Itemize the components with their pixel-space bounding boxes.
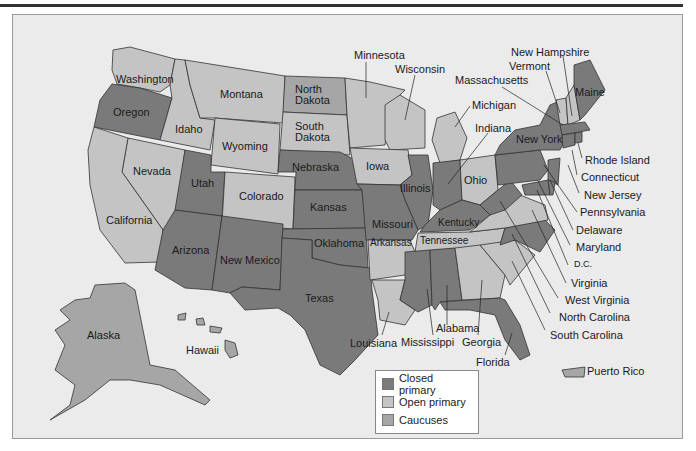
label-idaho: Idaho (175, 124, 203, 135)
label-arkansas: Arkansas (370, 238, 412, 248)
state-connecticut (562, 133, 575, 148)
legend-label: Caucuses (399, 414, 448, 426)
label-illinois: Illinois (400, 183, 431, 194)
state-hawaii-3 (210, 326, 222, 333)
state-michigan (432, 112, 467, 163)
label-texas: Texas (305, 293, 334, 304)
label-kansas: Kansas (310, 202, 347, 213)
label-vermont: Vermont (509, 61, 550, 72)
label-connecticut: Connecticut (581, 172, 639, 183)
label-new-hampshire: New Hampshire (511, 47, 589, 58)
state-rhode-island (575, 132, 582, 143)
label-south-dakota: South Dakota (295, 121, 330, 143)
state-hawaii-4 (225, 340, 238, 358)
state-mississippi (400, 250, 432, 312)
swatch-caucuses (382, 414, 394, 426)
state-hawaii-2 (196, 318, 205, 325)
label-florida: Florida (476, 357, 510, 368)
label-maine: Maine (575, 87, 605, 98)
label-louisiana: Louisiana (350, 338, 397, 349)
label-puerto-rico: Puerto Rico (587, 366, 644, 377)
label-kentucky: Kentucky (438, 218, 479, 228)
label-new-mexico: New Mexico (220, 255, 280, 266)
label-new-jersey: New Jersey (584, 190, 641, 201)
label-georgia: Georgia (462, 337, 501, 348)
label-delaware: Delaware (576, 225, 622, 236)
legend: Closed primary Open primary Caucuses (375, 370, 479, 434)
state-pennsylvania (495, 150, 548, 185)
label-west-virginia: West Virginia (565, 295, 629, 306)
label-indiana: Indiana (475, 123, 511, 134)
label-virginia: Virginia (571, 278, 608, 289)
legend-item-closed-primary: Closed primary (382, 375, 472, 393)
label-rhode-island: Rhode Island (585, 155, 650, 166)
label-massachusetts: Massachusetts (455, 75, 528, 86)
state-hawaii-1 (178, 313, 186, 320)
label-oregon: Oregon (113, 107, 150, 118)
swatch-open-primary (382, 396, 394, 408)
legend-label: Open primary (399, 396, 466, 408)
label-alabama: Alabama (436, 323, 479, 334)
label-utah: Utah (191, 178, 214, 189)
label-iowa: Iowa (366, 161, 389, 172)
label-new-york: New York (516, 134, 562, 145)
label-michigan: Michigan (472, 100, 516, 111)
label-wyoming: Wyoming (222, 141, 268, 152)
label-maryland: Maryland (576, 242, 621, 253)
label-alaska: Alaska (87, 330, 120, 341)
label-wisconsin: Wisconsin (395, 64, 445, 75)
legend-label: Closed primary (399, 372, 472, 396)
swatch-closed-primary (382, 378, 394, 390)
state-maryland (522, 180, 550, 195)
territory-puerto-rico (562, 367, 585, 377)
label-arizona: Arizona (172, 245, 209, 256)
label-hawaii: Hawaii (186, 345, 219, 356)
label-oklahoma: Oklahoma (314, 238, 364, 249)
legend-item-caucuses: Caucuses (382, 411, 472, 429)
label-washington: Washington (116, 74, 174, 85)
label-mississippi: Mississippi (401, 337, 454, 348)
label-california: California (106, 215, 152, 226)
label-montana: Montana (220, 89, 263, 100)
label-south-carolina: South Carolina (550, 330, 623, 341)
legend-item-open-primary: Open primary (382, 393, 472, 411)
label-north-dakota: North Dakota (295, 84, 330, 106)
label-nevada: Nevada (133, 166, 171, 177)
label-minnesota: Minnesota (354, 50, 405, 61)
state-wisconsin (385, 95, 425, 150)
label-pennsylvania: Pennsylvania (580, 207, 645, 218)
label-north-carolina: North Carolina (559, 312, 630, 323)
label-ohio: Ohio (464, 175, 487, 186)
label-tennessee: Tennessee (420, 236, 468, 246)
label-missouri: Missouri (372, 219, 413, 230)
label-colorado: Colorado (239, 191, 284, 202)
label-dc: D.C. (574, 260, 592, 269)
label-nebraska: Nebraska (292, 162, 339, 173)
